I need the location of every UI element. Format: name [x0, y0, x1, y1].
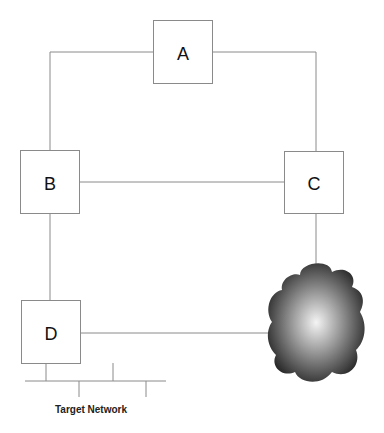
node-c: C	[285, 152, 344, 214]
node-d-label: D	[45, 324, 58, 344]
node-a-label: A	[177, 44, 189, 64]
target-network-label: Target Network	[55, 404, 127, 415]
cloud-icon	[268, 263, 365, 382]
node-b: B	[21, 151, 80, 214]
edge-a-c	[212, 52, 316, 151]
node-a: A	[154, 21, 213, 84]
node-c-label: C	[308, 174, 321, 194]
node-d: D	[22, 301, 81, 364]
target-network-bus	[25, 363, 166, 397]
network-diagram: A B C D Target Network	[0, 0, 384, 433]
edge-a-b	[50, 52, 153, 150]
node-b-label: B	[44, 174, 56, 194]
